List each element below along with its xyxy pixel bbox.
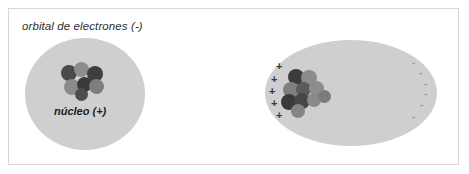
- negative-charge-icon: -: [412, 58, 415, 68]
- positive-charge-icon: +: [269, 86, 275, 97]
- negative-charge-icon: -: [419, 68, 422, 78]
- negative-charge-icon: -: [420, 100, 423, 110]
- panel-neutral-orbital: orbital de electrones (-) núcleo (+): [0, 0, 235, 174]
- atomic-polarization-figure: orbital de electrones (-) núcleo (+) orb…: [0, 0, 469, 174]
- negative-charge-icon: -: [412, 112, 415, 122]
- nucleon-circle: [318, 90, 331, 103]
- nucleon-circle: [75, 88, 88, 101]
- positive-charge-icon: +: [271, 74, 277, 85]
- positive-charge-icon: +: [271, 98, 277, 109]
- nucleus-label: núcleo (+): [54, 105, 106, 117]
- positive-charge-icon: +: [276, 61, 282, 72]
- negative-charge-icon: -: [424, 89, 427, 99]
- positive-charge-icon: +: [276, 110, 282, 121]
- caption-neutral-orbital: orbital de electrones (-): [22, 20, 143, 32]
- nucleon-circle: [291, 104, 305, 118]
- nucleon-circle: [89, 79, 104, 94]
